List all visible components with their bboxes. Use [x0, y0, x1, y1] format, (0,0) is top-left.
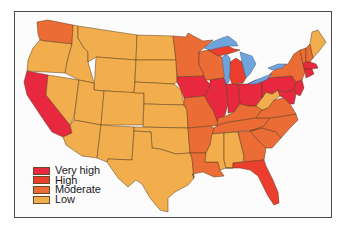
state-nd: [136, 35, 176, 60]
map-legend: Very high High Moderate Low: [33, 166, 101, 204]
legend-item-low: Low: [33, 195, 101, 205]
legend-label: Low: [55, 195, 75, 205]
state-co: [101, 91, 144, 125]
state-sd: [135, 60, 177, 84]
state-fl: [226, 160, 279, 205]
legend-swatch-very-high: [33, 167, 50, 175]
state-ct-ri: [304, 69, 314, 78]
legend-swatch-moderate: [33, 186, 50, 194]
state-nm: [97, 125, 134, 162]
state-me: [310, 30, 326, 58]
legend-swatch-low: [33, 196, 50, 204]
state-or: [27, 40, 72, 73]
state-ks: [143, 104, 188, 128]
legend-swatch-high: [33, 176, 50, 184]
state-ma: [303, 62, 318, 69]
state-wy: [94, 57, 136, 93]
